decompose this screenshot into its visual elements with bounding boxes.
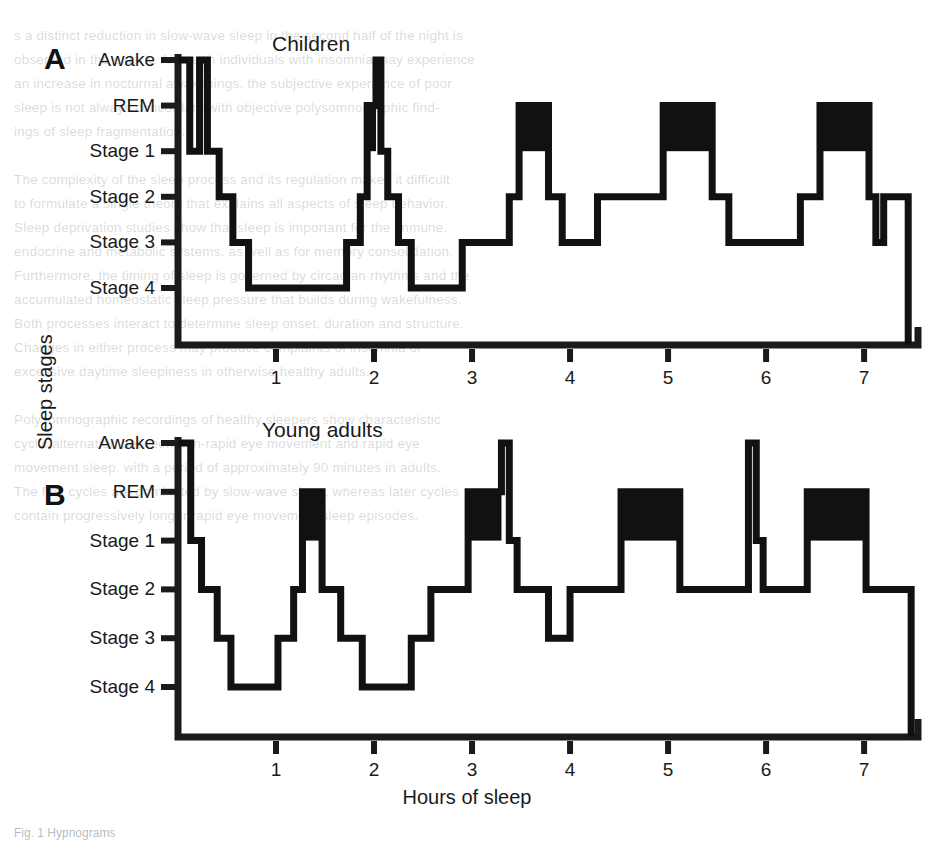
- y-tick-label-stage-1: Stage 1: [60, 530, 155, 552]
- x-tick-label-1: 1: [251, 367, 301, 389]
- rem-block-4: [820, 106, 869, 152]
- x-tick-label-4: 4: [545, 367, 595, 389]
- x-tick-label-4: 4: [545, 759, 595, 781]
- y-tick-label-rem: REM: [60, 95, 155, 117]
- x-tick-label-5: 5: [643, 759, 693, 781]
- hypnogram-trace-a: [178, 60, 908, 345]
- x-axis-title: Hours of sleep: [0, 786, 934, 809]
- x-tick-label-7: 7: [839, 759, 889, 781]
- panel-b-plot: [161, 437, 918, 754]
- x-tick-label-6: 6: [741, 367, 791, 389]
- y-tick-label-stage-4: Stage 4: [60, 277, 155, 299]
- y-tick-label-stage-4: Stage 4: [60, 676, 155, 698]
- x-tick-label-3: 3: [447, 759, 497, 781]
- rem-block-2: [468, 492, 501, 541]
- y-tick-label-awake: Awake: [60, 49, 155, 71]
- y-tick-label-stage-3: Stage 3: [60, 231, 155, 253]
- y-tick-label-stage-2: Stage 2: [60, 186, 155, 208]
- y-tick-label-stage-2: Stage 2: [60, 578, 155, 600]
- rem-block-3: [663, 106, 712, 152]
- hypnogram-trace-b: [178, 443, 911, 737]
- y-tick-label-stage-1: Stage 1: [60, 140, 155, 162]
- x-tick-label-1: 1: [251, 759, 301, 781]
- y-tick-label-awake: Awake: [60, 432, 155, 454]
- sleep-hypnogram-figure: Sleep stages A Children B Young adults H…: [0, 0, 934, 842]
- rem-block-3: [621, 492, 680, 541]
- rem-block-2: [519, 106, 548, 152]
- y-tick-label-stage-3: Stage 3: [60, 627, 155, 649]
- x-tick-label-5: 5: [643, 367, 693, 389]
- x-tick-label-3: 3: [447, 367, 497, 389]
- panel-a-plot: [161, 54, 918, 362]
- x-tick-label-2: 2: [349, 759, 399, 781]
- rem-block-4: [807, 492, 866, 541]
- figure-caption: Fig. 1 Hypnograms: [14, 826, 924, 840]
- x-tick-label-2: 2: [349, 367, 399, 389]
- y-tick-label-rem: REM: [60, 481, 155, 503]
- x-tick-label-6: 6: [741, 759, 791, 781]
- x-tick-label-7: 7: [839, 367, 889, 389]
